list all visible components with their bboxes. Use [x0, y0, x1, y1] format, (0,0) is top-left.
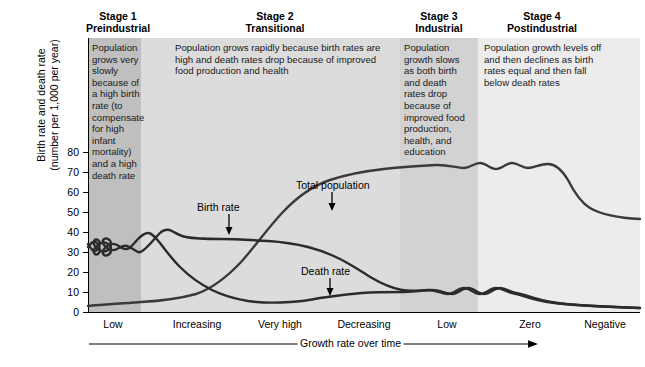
x-axis-title: Growth rate over time: [297, 337, 404, 349]
y-tick-mark-20: [83, 272, 88, 273]
stage-name-2: Transitional: [230, 22, 320, 34]
y-tick-mark-50: [83, 212, 88, 213]
y-tick-label-40: 40: [55, 226, 79, 238]
y-tick-label-0: 0: [55, 306, 79, 318]
plot-area: [88, 38, 640, 313]
stage-number-3: Stage 3: [394, 10, 484, 22]
y-tick-mark-80: [83, 152, 88, 153]
y-tick-mark-10: [83, 292, 88, 293]
stage-name-4: Postindustrial: [487, 22, 597, 34]
growth-rate-axis: Growth rate over time: [88, 336, 613, 356]
y-tick-mark-60: [83, 192, 88, 193]
y-tick-label-50: 50: [55, 206, 79, 218]
x-tick-label-6: Negative: [584, 318, 625, 330]
x-tick-label-0: Low: [103, 318, 122, 330]
x-tick-label-3: Decreasing: [337, 318, 390, 330]
x-tick-label-1: Increasing: [173, 318, 221, 330]
x-tick-label-5: Zero: [519, 318, 541, 330]
y-tick-label-10: 10: [55, 286, 79, 298]
death-rate-label: Death rate: [301, 265, 350, 277]
stage-number-4: Stage 4: [487, 10, 597, 22]
y-tick-mark-30: [83, 252, 88, 253]
stage-header-1: Stage 1 Preindustrial: [78, 10, 158, 34]
total-population-label: Total population: [296, 179, 370, 191]
stage-name-1: Preindustrial: [78, 22, 158, 34]
stage-header-4: Stage 4 Postindustrial: [487, 10, 597, 34]
y-tick-label-20: 20: [55, 266, 79, 278]
y-axis-title-line1: Birth rate and death rate: [35, 48, 47, 161]
y-axis-title-line2: (number per 1,000 per year): [48, 39, 60, 170]
stage-header-2: Stage 2 Transitional: [230, 10, 320, 34]
stage-number-2: Stage 2: [230, 10, 320, 22]
stage-header-3: Stage 3 Industrial: [394, 10, 484, 34]
x-tick-label-2: Very high: [258, 318, 302, 330]
birth-rate-label: Birth rate: [197, 201, 240, 213]
y-tick-mark-40: [83, 232, 88, 233]
stage-number-1: Stage 1: [78, 10, 158, 22]
x-tick-label-4: Low: [437, 318, 456, 330]
y-tick-label-30: 30: [55, 246, 79, 258]
y-axis-title: Birth rate and death rate (number per 1,…: [35, 5, 61, 205]
y-tick-mark-0: [83, 312, 88, 313]
y-tick-mark-70: [83, 172, 88, 173]
stage-name-3: Industrial: [394, 22, 484, 34]
demographic-transition-chart: Stage 1 Preindustrial Stage 2 Transition…: [0, 0, 645, 367]
